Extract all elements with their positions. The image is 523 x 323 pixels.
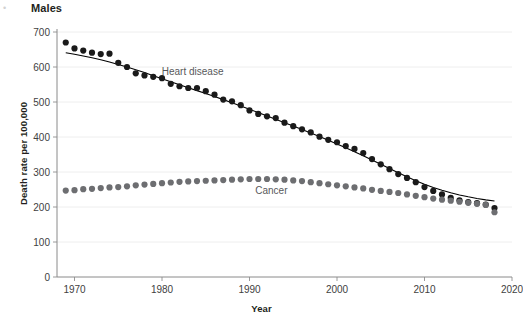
y-tick-label: 0 xyxy=(44,272,50,283)
data-point xyxy=(133,70,139,76)
data-point xyxy=(395,171,401,177)
data-point xyxy=(404,175,410,181)
data-point xyxy=(211,177,217,183)
data-point xyxy=(491,209,497,215)
data-point xyxy=(229,98,235,104)
data-point xyxy=(316,134,322,140)
data-point xyxy=(290,177,296,183)
data-point xyxy=(343,183,349,189)
data-point xyxy=(465,200,471,206)
annotation-heart-disease: Heart disease xyxy=(162,66,224,77)
data-point xyxy=(80,47,86,53)
data-point xyxy=(203,88,209,94)
data-point xyxy=(185,85,191,91)
data-point xyxy=(456,199,462,205)
data-point xyxy=(124,64,130,70)
data-point xyxy=(255,176,261,182)
data-point xyxy=(325,137,331,143)
x-axis-ticks: 197019801990200020102020 xyxy=(63,277,523,295)
data-point xyxy=(238,176,244,182)
data-point xyxy=(334,139,340,145)
y-tick-label: 400 xyxy=(33,132,50,143)
y-tick-label: 600 xyxy=(33,62,50,73)
y-tick-label: 300 xyxy=(33,167,50,178)
data-point xyxy=(63,39,69,45)
data-point xyxy=(386,189,392,195)
data-point xyxy=(246,176,252,182)
x-tick-label: 1970 xyxy=(63,284,86,295)
data-point xyxy=(448,198,454,204)
data-point xyxy=(474,201,480,207)
data-point xyxy=(404,191,410,197)
data-point xyxy=(194,178,200,184)
data-point xyxy=(168,81,174,87)
data-point xyxy=(378,161,384,167)
data-point xyxy=(141,72,147,78)
data-point xyxy=(89,50,95,56)
data-point xyxy=(334,182,340,188)
data-point xyxy=(98,185,104,191)
data-point xyxy=(168,179,174,185)
chart-plot-area: 0100200300400500600700 19701980199020002… xyxy=(0,0,523,323)
data-point xyxy=(264,113,270,119)
data-point xyxy=(308,129,314,135)
x-tick-label: 2000 xyxy=(326,284,349,295)
data-point xyxy=(124,183,130,189)
data-point xyxy=(194,85,200,91)
data-point xyxy=(299,126,305,132)
data-point xyxy=(255,111,261,117)
data-point xyxy=(246,107,252,113)
data-point xyxy=(133,182,139,188)
x-tick-label: 2010 xyxy=(413,284,436,295)
data-point xyxy=(71,45,77,51)
data-point xyxy=(211,92,217,98)
data-point xyxy=(176,179,182,185)
y-tick-label: 500 xyxy=(33,97,50,108)
data-point xyxy=(413,179,419,185)
data-point xyxy=(203,178,209,184)
y-tick-label: 200 xyxy=(33,202,50,213)
data-point xyxy=(386,166,392,172)
data-point xyxy=(430,196,436,202)
data-point xyxy=(115,60,121,66)
data-point xyxy=(290,123,296,129)
data-point xyxy=(159,180,165,186)
data-point xyxy=(176,83,182,89)
data-point xyxy=(351,184,357,190)
data-point xyxy=(141,182,147,188)
data-point xyxy=(71,187,77,193)
data-point xyxy=(369,156,375,162)
data-point xyxy=(273,176,279,182)
data-point xyxy=(325,181,331,187)
data-point xyxy=(439,197,445,203)
data-point xyxy=(378,188,384,194)
data-point xyxy=(343,143,349,149)
data-point xyxy=(360,185,366,191)
data-point xyxy=(273,115,279,121)
data-point xyxy=(421,194,427,200)
data-point xyxy=(281,177,287,183)
x-tick-label: 1980 xyxy=(151,284,174,295)
y-tick-label: 700 xyxy=(33,27,50,38)
data-point xyxy=(360,150,366,156)
trend-line-heart-disease xyxy=(66,53,495,201)
data-point xyxy=(89,186,95,192)
data-point xyxy=(395,190,401,196)
data-point xyxy=(281,120,287,126)
annotation-cancer: Cancer xyxy=(255,185,288,196)
data-point xyxy=(264,176,270,182)
data-point xyxy=(421,184,427,190)
data-point xyxy=(351,146,357,152)
trend-lines xyxy=(66,53,495,201)
data-point xyxy=(483,202,489,208)
y-tick-label: 100 xyxy=(33,237,50,248)
chart-page: • Males Death rate per 100,000 Year 0100… xyxy=(0,0,523,323)
data-point xyxy=(238,102,244,108)
y-axis-ticks: 0100200300400500600700 xyxy=(33,27,57,283)
data-point xyxy=(369,187,375,193)
data-point xyxy=(220,177,226,183)
gridlines xyxy=(57,32,512,242)
data-point xyxy=(185,178,191,184)
data-point xyxy=(316,180,322,186)
data-point xyxy=(413,193,419,199)
